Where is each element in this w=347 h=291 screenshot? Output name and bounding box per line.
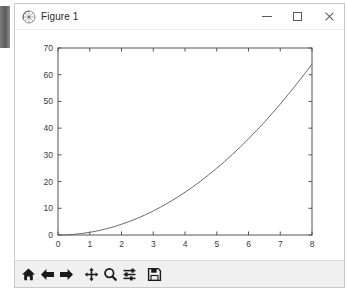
magnifier-icon xyxy=(103,267,118,282)
svg-text:4: 4 xyxy=(183,239,188,249)
sliders-icon xyxy=(122,267,137,282)
svg-text:1: 1 xyxy=(87,239,92,249)
svg-text:2: 2 xyxy=(119,239,124,249)
minimize-button[interactable] xyxy=(251,4,282,29)
matplotlib-icon xyxy=(22,10,36,24)
svg-text:40: 40 xyxy=(44,123,54,133)
window-title: Figure 1 xyxy=(41,11,79,22)
arrow-right-icon xyxy=(59,267,74,282)
zoom-button[interactable] xyxy=(101,265,120,284)
move-cross-icon xyxy=(84,267,99,282)
figure-canvas[interactable]: 012345678010203040506070 xyxy=(15,30,344,260)
svg-text:0: 0 xyxy=(48,230,53,240)
close-icon xyxy=(324,12,334,22)
arrow-left-icon xyxy=(40,267,55,282)
home-icon xyxy=(21,267,36,282)
plot-area: 012345678010203040506070 xyxy=(15,30,344,260)
svg-text:20: 20 xyxy=(44,177,54,187)
navigation-toolbar xyxy=(15,260,344,287)
title-bar[interactable]: Figure 1 xyxy=(15,4,344,30)
home-button[interactable] xyxy=(19,265,38,284)
svg-text:60: 60 xyxy=(44,70,54,80)
floppy-disk-icon xyxy=(147,267,162,282)
svg-text:30: 30 xyxy=(44,150,54,160)
svg-text:50: 50 xyxy=(44,96,54,106)
pan-button[interactable] xyxy=(82,265,101,284)
svg-text:6: 6 xyxy=(246,239,251,249)
svg-text:70: 70 xyxy=(44,43,54,53)
figure-window: Figure 1 012345678010203040506070 xyxy=(14,3,345,288)
forward-button[interactable] xyxy=(57,265,76,284)
maximize-icon xyxy=(293,12,302,21)
close-button[interactable] xyxy=(313,4,344,29)
desktop-background-artifact xyxy=(0,6,10,48)
svg-text:3: 3 xyxy=(151,239,156,249)
save-button[interactable] xyxy=(145,265,164,284)
svg-text:7: 7 xyxy=(278,239,283,249)
svg-text:8: 8 xyxy=(310,239,315,249)
svg-text:10: 10 xyxy=(44,203,54,213)
window-controls xyxy=(251,4,344,29)
svg-text:0: 0 xyxy=(56,239,61,249)
subplots-config-button[interactable] xyxy=(120,265,139,284)
maximize-button[interactable] xyxy=(282,4,313,29)
svg-text:5: 5 xyxy=(214,239,219,249)
back-button[interactable] xyxy=(38,265,57,284)
minimize-icon xyxy=(262,16,272,17)
